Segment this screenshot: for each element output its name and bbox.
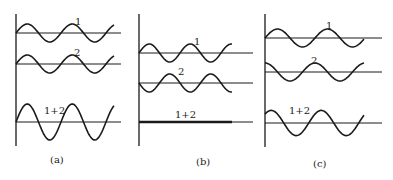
panel-a-sum-label: 1+2 — [44, 105, 65, 116]
panel-a-caption: (a) — [50, 154, 64, 165]
panel-c-wave1-label: 1 — [326, 20, 332, 31]
panel-b-caption: (b) — [196, 156, 210, 167]
panel-a-wave2-label: 2 — [74, 47, 80, 58]
panel-b-sum-label: 1+2 — [175, 109, 196, 120]
panel-c-sum-label: 1+2 — [289, 105, 310, 116]
panel-c-wave2-label: 2 — [311, 55, 317, 66]
panel-a: 1 2 1+2 (a) — [16, 14, 121, 165]
panel-c-caption: (c) — [313, 158, 327, 169]
panel-c: 1 2 1+2 (c) — [265, 14, 382, 169]
panel-b-wave1-label: 1 — [194, 36, 200, 47]
panel-b-wave2-label: 2 — [178, 66, 184, 77]
panel-a-wave1-label: 1 — [75, 16, 81, 27]
wave-superposition-diagram: 1 2 1+2 (a) 1 2 1+2 (b) 1 2 1+2 (c) — [0, 0, 393, 180]
panel-b: 1 2 1+2 (b) — [139, 14, 253, 167]
